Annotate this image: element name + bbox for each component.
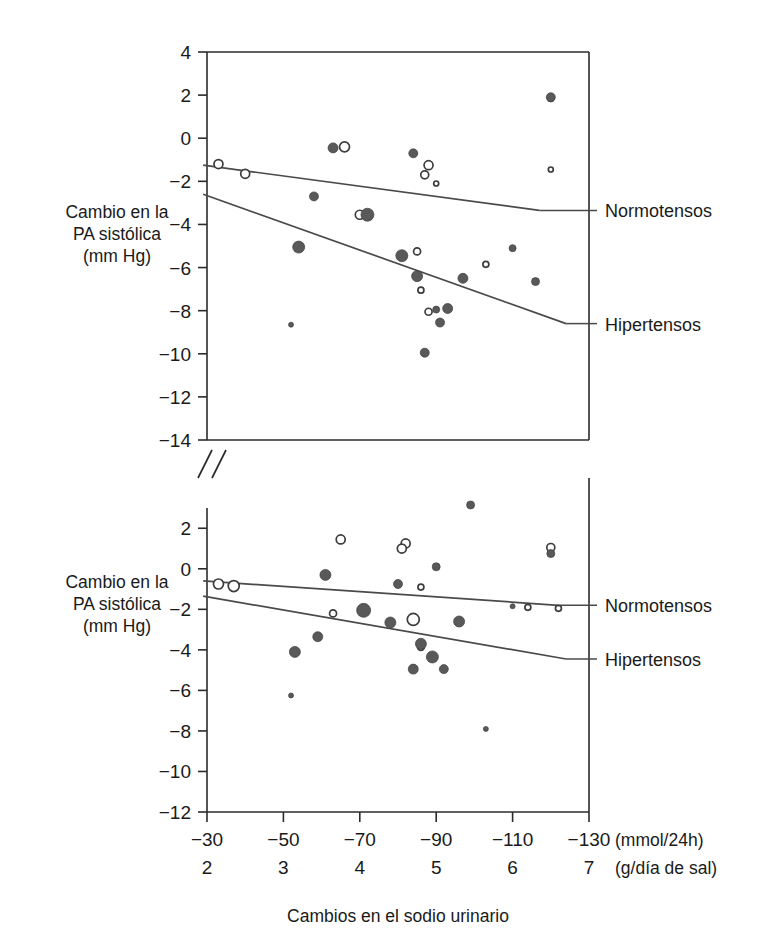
data-point-hypertensive <box>458 273 468 283</box>
y-tick-label: −12 <box>159 387 191 408</box>
axis-break-slash <box>212 450 226 478</box>
y-axis-title-line: Cambio en la <box>65 572 168 592</box>
y-axis-title-line: (mm Hg) <box>83 616 151 636</box>
data-point-hypertensive <box>483 726 488 731</box>
y-tick-label: −8 <box>169 721 191 742</box>
data-point-hypertensive <box>394 580 403 589</box>
data-point-hypertensive <box>309 192 318 201</box>
data-point-hypertensive <box>313 632 323 642</box>
data-point-normotensive <box>407 613 419 625</box>
regression-line-hipertensos <box>203 194 566 323</box>
data-point-normotensive <box>340 142 350 152</box>
data-point-normotensive <box>228 581 239 592</box>
x-unit-mmol-label: (mmol/24h) <box>615 830 704 850</box>
scatter-chart: 420−2−4−6−8−10−12−14NormotensosHipertens… <box>0 0 776 936</box>
data-point-normotensive <box>434 181 439 186</box>
data-point-hypertensive <box>426 651 438 663</box>
y-tick-label: −6 <box>169 258 191 279</box>
data-point-normotensive <box>421 171 429 179</box>
data-point-hypertensive <box>432 563 440 571</box>
y-axis-title-line: (mm Hg) <box>83 246 151 266</box>
data-point-hypertensive <box>547 550 555 558</box>
x-tick-label-mmol: −110 <box>492 829 533 850</box>
x-tick-label-mmol: −90 <box>420 829 452 850</box>
series-label-hypertensive: Hipertensos <box>605 650 701 670</box>
data-point-hypertensive <box>420 348 429 357</box>
x-tick-label-mmol: −130 <box>568 829 611 850</box>
y-tick-label: −4 <box>169 214 191 235</box>
y-tick-label: −2 <box>169 171 191 192</box>
x-unit-salt-label: (g/día de sal) <box>615 858 717 878</box>
y-tick-label: −10 <box>159 761 191 782</box>
data-point-hypertensive <box>385 617 396 628</box>
data-point-normotensive <box>241 169 250 178</box>
data-point-normotensive <box>548 167 553 172</box>
regression-line-normotensos <box>203 581 558 605</box>
y-axis-title-line: Cambio en la <box>65 202 168 222</box>
data-point-hypertensive <box>436 318 445 327</box>
data-point-normotensive <box>483 261 489 267</box>
y-tick-label: −6 <box>169 680 191 701</box>
data-point-normotensive <box>414 248 421 255</box>
data-point-normotensive <box>213 579 223 589</box>
data-point-normotensive <box>424 161 433 170</box>
y-axis-title-line: PA sistólica <box>73 224 161 244</box>
y-tick-label: 2 <box>180 518 191 539</box>
data-point-hypertensive <box>409 149 418 158</box>
data-point-normotensive <box>555 605 561 611</box>
x-tick-label-salt: 7 <box>584 857 595 878</box>
data-point-normotensive <box>525 604 531 610</box>
y-tick-label: 2 <box>180 85 191 106</box>
x-tick-label-mmol: −50 <box>267 829 299 850</box>
upper-panel: 420−2−4−6−8−10−12−14NormotensosHipertens… <box>65 42 712 451</box>
data-point-hypertensive <box>433 306 440 313</box>
x-tick-label-mmol: −30 <box>191 829 223 850</box>
y-tick-label: 4 <box>180 42 191 63</box>
series-label-normotensive: Normotensos <box>605 596 712 616</box>
data-point-normotensive <box>418 287 424 293</box>
y-tick-label: −14 <box>159 430 192 451</box>
data-point-hypertensive <box>443 304 453 314</box>
x-tick-label-salt: 6 <box>507 857 518 878</box>
data-point-normotensive <box>336 535 345 544</box>
figure-labels: Cambios en el sodio urinario <box>287 906 509 926</box>
data-point-hypertensive <box>396 250 408 262</box>
data-point-normotensive <box>418 584 424 590</box>
lower-panel: 20−2−4−6−8−10−12NormotensosHipertensosCa… <box>65 478 712 823</box>
data-point-normotensive <box>425 308 432 315</box>
data-point-hypertensive <box>289 693 294 698</box>
data-point-hypertensive <box>467 501 475 509</box>
x-tick-label-salt: 4 <box>355 857 366 878</box>
data-point-hypertensive <box>357 603 371 617</box>
data-point-hypertensive <box>328 143 338 153</box>
data-point-hypertensive <box>289 322 294 327</box>
y-tick-label: −12 <box>159 802 191 823</box>
x-tick-label-salt: 3 <box>278 857 289 878</box>
data-point-hypertensive <box>439 665 448 674</box>
x-tick-label-salt: 5 <box>431 857 442 878</box>
data-point-hypertensive <box>454 616 465 627</box>
series-label-normotensive: Normotensos <box>605 201 712 221</box>
data-point-hypertensive <box>532 278 540 286</box>
data-point-normotensive <box>330 610 337 617</box>
x-axis: −302−503−704−905−1106−1307(mmol/24h)(g/d… <box>191 812 717 878</box>
regression-line-normotensos <box>203 165 539 210</box>
x-tick-label-salt: 2 <box>202 857 213 878</box>
series-label-hypertensive: Hipertensos <box>605 315 701 335</box>
y-axis-title-line: PA sistólica <box>73 594 161 614</box>
data-point-hypertensive <box>289 646 300 657</box>
axis-break-slash <box>198 450 212 478</box>
data-point-hypertensive <box>546 93 555 102</box>
data-point-hypertensive <box>412 271 423 282</box>
y-tick-label: −4 <box>169 640 191 661</box>
data-point-hypertensive <box>293 241 305 253</box>
data-point-hypertensive <box>415 638 426 649</box>
x-tick-label-mmol: −70 <box>344 829 376 850</box>
y-tick-label: 0 <box>180 128 191 149</box>
axis-break-marker <box>198 450 226 478</box>
y-tick-label: −8 <box>169 301 191 322</box>
data-point-hypertensive <box>510 604 515 609</box>
y-tick-label: −2 <box>169 599 191 620</box>
data-point-normotensive <box>214 160 223 169</box>
y-tick-label: −10 <box>159 344 191 365</box>
